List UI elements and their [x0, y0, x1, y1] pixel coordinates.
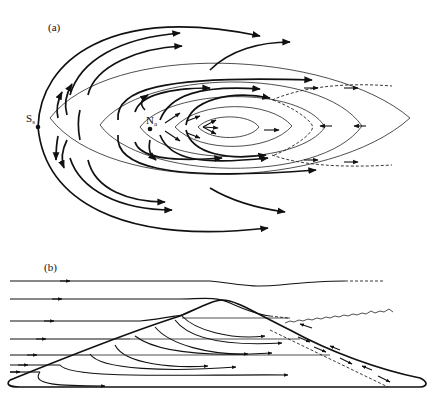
saddle-point [36, 125, 41, 130]
panel-a [36, 27, 410, 231]
dashed-lines [272, 85, 392, 166]
saddle-arrows [56, 84, 80, 168]
node-point [148, 127, 153, 132]
diagram-svg [0, 0, 439, 400]
panel-b [8, 281, 426, 387]
center-arrows [165, 88, 366, 162]
slope-arrows [298, 324, 390, 382]
wavy-line [285, 309, 393, 323]
internal-flow [38, 316, 288, 386]
outer-flow-arrows [38, 27, 290, 231]
dashed-diagonal [270, 330, 388, 387]
